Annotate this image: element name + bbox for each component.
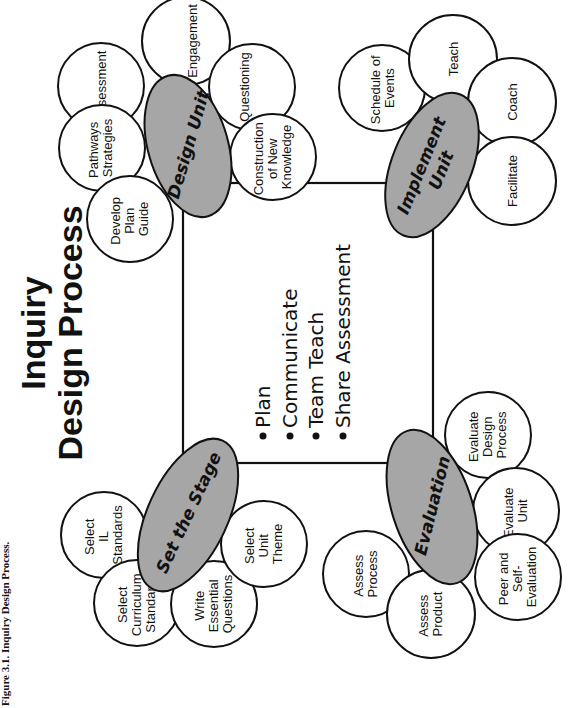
bullet-dot-icon: [260, 433, 267, 440]
bullet-item-communicate: Communicate: [278, 289, 302, 440]
bullet-label: Team Teach: [304, 312, 328, 429]
bullet-item-team-teach: Team Teach: [304, 312, 328, 440]
bullet-dot-icon: [340, 433, 347, 440]
bullet-label: Plan: [251, 385, 275, 428]
bullet-dot-icon: [313, 433, 320, 440]
node-coach[interactable]: Coach: [468, 58, 556, 146]
svg-text:Evaluate Design: Evaluate Design Process: [466, 408, 509, 462]
center-bullet-list: Plan Communicate Team Teach Share Assess…: [251, 244, 355, 440]
title-line-2: Design Process: [51, 205, 89, 460]
diagram-title: Inquiry Design Process: [14, 205, 89, 460]
svg-text:Coach: Coach: [505, 83, 520, 121]
stage-evaluation: Assess Process Assess Product Evaluate D…: [323, 392, 561, 658]
svg-text:Questioning: Questioning: [237, 52, 252, 121]
svg-text:Assess Product: Assess Product: [416, 591, 445, 637]
bullet-dot-icon: [287, 433, 294, 440]
bullet-label: Share Assessment: [331, 244, 355, 428]
bullet-item-plan: Plan: [251, 385, 275, 439]
svg-text:Teach: Teach: [446, 42, 461, 77]
title-line-1: Inquiry: [14, 276, 52, 389]
node-peer-and-self-evaluation[interactable]: Peer and Self- Evaluation: [475, 534, 561, 620]
node-develop-plan-guide[interactable]: Develop Plan Guide: [87, 176, 173, 262]
bullet-item-share-assessment: Share Assessment: [331, 244, 355, 440]
svg-text:Facilitate: Facilitate: [505, 155, 520, 207]
stage-implement-unit: Schedule of Events Teach Coach Facilitat…: [339, 15, 556, 250]
node-construction-of-new-knowledge[interactable]: Construction of New Knowledge: [230, 114, 316, 200]
figure-caption-text: Figure 3.1. Inquiry Design Process.: [0, 541, 11, 706]
node-select-unit-theme[interactable]: Select Unit Theme: [221, 501, 307, 587]
svg-text:Engagement: Engagement: [185, 4, 200, 78]
node-assess-product[interactable]: Assess Product: [387, 570, 475, 658]
bullet-label: Communicate: [278, 289, 302, 428]
stage-design-unit: Assessment Pathways Strategies Develop P…: [58, 0, 316, 262]
node-facilitate[interactable]: Facilitate: [468, 137, 556, 225]
svg-text:Assess Process: Assess Process: [351, 550, 380, 597]
svg-text:Pathways Strategies: Pathways Strategies: [86, 118, 115, 178]
inquiry-design-diagram: Figure 3.1. Inquiry Design Process. Inqu…: [0, 0, 574, 708]
stage-set-the-stage: Select IL Standards Select Curriculum St…: [61, 424, 307, 647]
